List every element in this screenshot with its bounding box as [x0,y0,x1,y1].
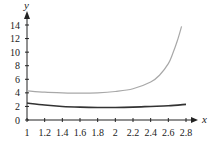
series-line [27,103,186,107]
y-tick-label: 14 [10,20,20,31]
labels: 11.21.41.61.822.22.42.62.802468101214xy [10,0,207,138]
y-tick-label: 8 [15,60,20,71]
series-line [27,26,182,93]
y-tick-label: 6 [15,74,20,85]
x-tick-label: 2.2 [127,127,140,138]
x-tick-label: 2 [113,127,118,138]
x-tick-label: 2.6 [162,127,175,138]
y-tick-label: 12 [10,33,20,44]
series-group [27,26,186,107]
line-chart: 11.21.41.61.822.22.42.62.802468101214xy [0,0,210,142]
x-tick-label: 1 [25,127,30,138]
x-tick-label: 2.8 [180,127,193,138]
y-tick-label: 4 [15,87,20,98]
y-axis-arrow-icon [24,11,30,19]
y-tick-label: 10 [10,47,20,58]
x-tick-label: 1.8 [91,127,104,138]
y-axis-label: y [23,0,29,11]
x-tick-label: 1.4 [56,127,69,138]
x-tick-label: 2.4 [144,127,157,138]
y-tick-label: 0 [15,115,20,126]
x-axis-arrow-icon [191,117,198,123]
x-axis-label: x [201,113,207,125]
y-tick-label: 2 [15,101,20,112]
x-tick-label: 1.2 [38,127,51,138]
x-tick-label: 1.6 [74,127,87,138]
